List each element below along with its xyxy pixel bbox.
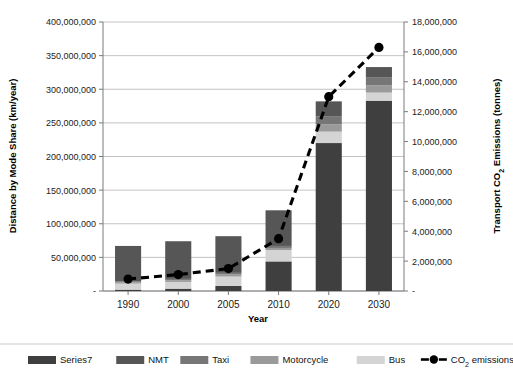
y2-axis-title: Transport CO2 Emissions (tonnes) bbox=[491, 79, 505, 234]
y-axis-tick-label: 50,000,000 bbox=[51, 253, 96, 263]
legend-label: Taxi bbox=[212, 354, 229, 365]
bar-segment bbox=[316, 132, 342, 143]
y-axis-tick-label: 300,000,000 bbox=[46, 85, 96, 95]
legend-item[interactable]: Motorcycle bbox=[250, 354, 328, 365]
y-axis-tick-label: 400,000,000 bbox=[46, 17, 96, 27]
bar-segment bbox=[215, 275, 241, 277]
y-axis-tick-label: 200,000,000 bbox=[46, 152, 96, 162]
bar-segment bbox=[266, 250, 292, 261]
chart-container: -50,000,000100,000,000150,000,000200,000… bbox=[0, 0, 513, 381]
x-axis-tick-label: 2005 bbox=[217, 299, 240, 310]
y2-axis-tick-label: 16,000,000 bbox=[412, 47, 457, 57]
legend-marker-dot bbox=[430, 355, 438, 363]
legend-label: Motorcycle bbox=[282, 354, 328, 365]
bar-segment bbox=[215, 286, 241, 291]
legend-item[interactable]: Series7 bbox=[28, 354, 92, 365]
legend-item[interactable]: Taxi bbox=[180, 354, 229, 365]
co2-data-point bbox=[224, 264, 233, 273]
bar-segment bbox=[115, 290, 141, 291]
legend-swatch bbox=[28, 356, 56, 364]
legend-swatch bbox=[180, 356, 208, 364]
y-axis-tick-label: 350,000,000 bbox=[46, 51, 96, 61]
bar-segment bbox=[165, 282, 191, 289]
legend-swatch bbox=[250, 356, 278, 364]
bar-segment bbox=[115, 284, 141, 290]
legend-swatch bbox=[116, 356, 144, 364]
co2-data-point bbox=[374, 43, 383, 52]
y2-axis-tick-label: 2,000,000 bbox=[412, 257, 452, 267]
co2-data-point bbox=[324, 92, 333, 101]
x-axis-tick-label: 2020 bbox=[318, 299, 341, 310]
x-axis-tick-label: 2000 bbox=[167, 299, 190, 310]
co2-data-point bbox=[274, 234, 283, 243]
y2-axis-tick-label: 12,000,000 bbox=[412, 107, 457, 117]
bar-segment bbox=[366, 77, 392, 85]
bar-segment bbox=[266, 246, 292, 248]
bar-segment bbox=[316, 116, 342, 124]
y2-axis-tick-label: 10,000,000 bbox=[412, 137, 457, 147]
x-axis-tick-label: 2010 bbox=[267, 299, 290, 310]
y-axis-title: Distance by Mode Share (km/year) bbox=[7, 79, 18, 234]
bar-segment bbox=[366, 67, 392, 77]
bar-segment bbox=[316, 101, 342, 116]
bar-segment bbox=[316, 143, 342, 291]
y2-axis-tick-label: 4,000,000 bbox=[412, 227, 452, 237]
legend-item[interactable]: Bus bbox=[357, 354, 406, 365]
bar-segment bbox=[165, 280, 191, 282]
bar-segment bbox=[266, 248, 292, 250]
y-axis-tick-label: 250,000,000 bbox=[46, 118, 96, 128]
legend-label: Series7 bbox=[60, 354, 92, 365]
y-axis-tick-label: - bbox=[93, 286, 96, 296]
x-axis-tick-label: 1990 bbox=[117, 299, 140, 310]
bar-segment bbox=[366, 85, 392, 92]
legend-label: Bus bbox=[389, 354, 406, 365]
x-axis-tick-label: 2030 bbox=[368, 299, 391, 310]
bar-segment bbox=[165, 289, 191, 291]
bar-segment bbox=[266, 261, 292, 291]
bar-segment bbox=[366, 93, 392, 101]
bar-segment bbox=[366, 101, 392, 291]
co2-data-point bbox=[123, 274, 132, 283]
y2-axis-tick-label: 14,000,000 bbox=[412, 77, 457, 87]
bar-segment bbox=[215, 277, 241, 286]
legend-swatch bbox=[357, 356, 385, 364]
y-axis-tick-label: 100,000,000 bbox=[46, 219, 96, 229]
co2-data-point bbox=[174, 270, 183, 279]
y2-axis-tick-label: 6,000,000 bbox=[412, 197, 452, 207]
y2-axis-tick-label: 8,000,000 bbox=[412, 167, 452, 177]
legend-item[interactable]: NMT bbox=[116, 354, 169, 365]
legend-label: NMT bbox=[148, 354, 169, 365]
y-axis-tick-label: 150,000,000 bbox=[46, 186, 96, 196]
legend-label: CO2 emissions bbox=[451, 354, 513, 368]
legend-item[interactable]: CO2 emissions bbox=[421, 354, 513, 368]
x-axis-title: Year bbox=[248, 313, 268, 324]
y2-axis-tick-label: 18,000,000 bbox=[412, 17, 457, 27]
y2-axis-tick-label: - bbox=[412, 286, 415, 296]
